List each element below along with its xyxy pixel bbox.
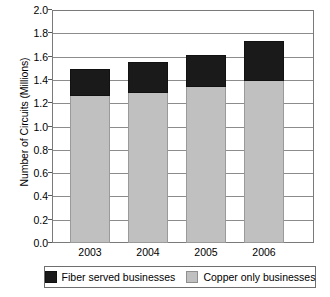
bar-group [128, 10, 168, 243]
y-tick-label: 0.4 [12, 191, 48, 201]
y-tick-label: 1.6 [12, 52, 48, 62]
y-tick-mark [48, 149, 52, 150]
y-tick-label: 0.6 [12, 168, 48, 178]
y-tick-label: 0.2 [12, 215, 48, 225]
legend-item-fiber: Fiber served businesses [45, 271, 176, 283]
legend-label-copper: Copper only businesses [203, 271, 315, 283]
legend-label-fiber: Fiber served businesses [62, 271, 176, 283]
bar-segment-fiber [186, 55, 226, 86]
x-tick-label: 2004 [118, 246, 178, 258]
black-square-icon [45, 271, 57, 283]
chart-legend: Fiber served businesses Copper only busi… [44, 266, 316, 288]
bar-group [70, 10, 110, 243]
stacked-bar-chart: Number of Circuits (Millions) 2.01.81.61… [0, 0, 330, 297]
bar-group [186, 10, 226, 243]
y-tick-mark [48, 102, 52, 103]
y-tick-mark [48, 126, 52, 127]
y-tick-mark [48, 56, 52, 57]
bar-segment-fiber [128, 62, 168, 92]
y-tick-mark [48, 242, 52, 243]
bar-segment-copper [186, 86, 226, 243]
y-tick-mark [48, 9, 52, 10]
bar-group [244, 10, 284, 243]
x-tick-label: 2003 [60, 246, 120, 258]
y-tick-label: 1.4 [12, 75, 48, 85]
y-tick-mark [48, 195, 52, 196]
y-tick-mark [48, 172, 52, 173]
bar-segment-copper [128, 92, 168, 243]
y-tick-label: 2.0 [12, 5, 48, 15]
y-tick-label: 1.8 [12, 28, 48, 38]
bar-segment-copper [70, 95, 110, 243]
bar-segment-copper [244, 80, 284, 243]
gray-square-icon [186, 271, 198, 283]
x-tick-label: 2006 [234, 246, 294, 258]
legend-item-copper: Copper only businesses [186, 271, 315, 283]
bar-segment-fiber [244, 41, 284, 81]
y-tick-mark [48, 219, 52, 220]
y-tick-mark [48, 79, 52, 80]
y-tick-label: 1.0 [12, 122, 48, 132]
x-tick-label: 2005 [176, 246, 236, 258]
y-tick-mark [48, 32, 52, 33]
y-tick-label: 0.0 [12, 238, 48, 248]
y-tick-label: 0.8 [12, 145, 48, 155]
bar-segment-fiber [70, 69, 110, 96]
y-tick-label: 1.2 [12, 98, 48, 108]
